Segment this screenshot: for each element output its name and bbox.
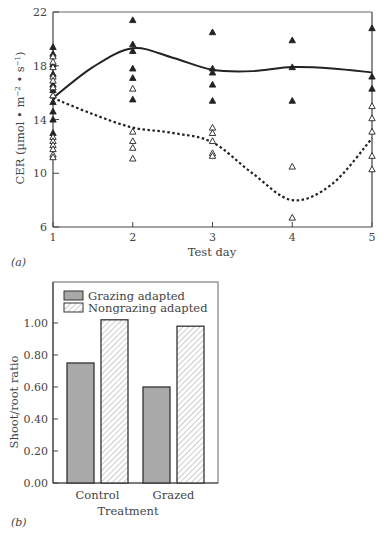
figure: 610141822 12345 Test day CER (µmol • m−2… xyxy=(0,0,384,544)
y-tick-label: 0.60 xyxy=(24,381,49,394)
nongrazing-bar-control xyxy=(101,320,128,483)
legend-swatch-grazing xyxy=(64,291,83,300)
filled-triangle-marker xyxy=(130,65,136,71)
open-triangle-marker xyxy=(289,214,295,220)
y-axis-title: CER (µmol • m−2 • s−1) xyxy=(13,51,27,184)
filled-triangle-marker xyxy=(130,75,136,81)
x-tick-label: 5 xyxy=(369,231,376,244)
y-tick-label: 0.20 xyxy=(24,445,49,458)
x-axis-title: Test day xyxy=(188,245,237,259)
x-tick-label: 3 xyxy=(209,231,216,244)
open-triangle-marker xyxy=(209,138,215,144)
filled-triangle-marker xyxy=(50,44,56,50)
x-axis-title: Treatment xyxy=(97,504,159,518)
open-triangle-marker xyxy=(369,128,375,134)
y-tick-label: 0.80 xyxy=(24,349,49,362)
category-label: Grazed xyxy=(153,488,195,502)
filled-triangle-marker xyxy=(50,99,56,105)
grazing-bar-control xyxy=(67,363,94,483)
y-tick-label: 14 xyxy=(33,114,47,127)
panel-b: 0.000.200.400.600.801.00 ControlGrazed G… xyxy=(7,282,218,529)
open-triangle-marker xyxy=(130,128,136,134)
open-triangle-marker xyxy=(369,153,375,159)
y-tick-label: 10 xyxy=(33,167,47,180)
y-axis-title: Shoot/root ratio xyxy=(7,356,21,449)
open-triangle-marker xyxy=(369,103,375,109)
filled-triangle-marker xyxy=(209,97,215,103)
x-tick-label: 2 xyxy=(129,231,136,244)
data-points xyxy=(50,17,375,220)
y-tick-label: 22 xyxy=(33,6,47,19)
filled-triangle-marker xyxy=(50,108,56,114)
open-triangle-marker xyxy=(130,145,136,151)
filled-triangle-marker xyxy=(369,85,375,91)
open-triangle-marker xyxy=(289,163,295,169)
category-labels: ControlGrazed xyxy=(76,488,195,502)
y-tick-label: 18 xyxy=(33,60,47,73)
y-tick-label: 6 xyxy=(40,221,47,234)
filled-triangle-marker xyxy=(130,41,136,47)
legend: Grazing adapted Nongrazing adapted xyxy=(64,289,208,315)
open-triangle-marker xyxy=(130,138,136,144)
y-tick-label: 0.00 xyxy=(24,477,49,490)
legend-label-nongrazing: Nongrazing adapted xyxy=(88,301,208,315)
panel-label-a: (a) xyxy=(11,256,26,269)
filled-triangle-marker xyxy=(130,17,136,23)
grazing-bar-grazed xyxy=(143,387,170,483)
open-triangle-marker xyxy=(209,130,215,136)
open-triangle-marker xyxy=(130,85,136,91)
y-tick-label: 0.40 xyxy=(24,413,49,426)
nongrazing-bar-grazed xyxy=(177,326,204,483)
filled-triangle-marker xyxy=(130,96,136,102)
y-tick-label: 1.00 xyxy=(24,317,49,330)
filled-triangle-marker xyxy=(209,81,215,87)
category-label: Control xyxy=(76,488,120,502)
open-triangle-marker xyxy=(130,155,136,161)
filled-triangle-marker xyxy=(209,29,215,35)
x-tick-label: 4 xyxy=(289,231,296,244)
open-triangle-marker xyxy=(369,166,375,172)
panel-label-b: (b) xyxy=(11,516,27,529)
filled-triangle-marker xyxy=(369,25,375,31)
x-tick-label: 1 xyxy=(50,231,57,244)
bars xyxy=(67,320,204,483)
open-triangle-marker xyxy=(369,115,375,121)
filled-triangle-marker xyxy=(289,97,295,103)
filled-triangle-marker xyxy=(289,37,295,43)
legend-swatch-nongrazing xyxy=(64,303,83,312)
filled-triangle-marker xyxy=(369,73,375,79)
panel-a: 610141822 12345 Test day CER (µmol • m−2… xyxy=(11,6,376,269)
